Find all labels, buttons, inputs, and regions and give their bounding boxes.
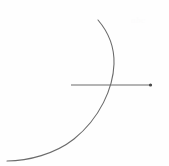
figure-canvas: abc [0, 0, 169, 166]
endpoint-dot-marker [149, 83, 152, 86]
watermark-text: abc [131, 15, 146, 25]
arc-path [7, 20, 114, 161]
